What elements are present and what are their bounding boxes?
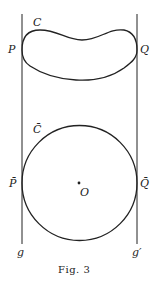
- figure-diagram: C P Q C̄ P̄ Q̄ O g g′ Fig. 3: [0, 0, 155, 288]
- label-c: C: [33, 16, 42, 29]
- label-p-bar: P̄: [8, 177, 17, 190]
- label-q: Q: [140, 43, 149, 56]
- figure-caption: Fig. 3: [58, 264, 90, 275]
- label-p: P: [7, 43, 16, 56]
- label-g: g: [17, 246, 24, 259]
- label-g-prime: g′: [132, 246, 142, 259]
- label-o: O: [80, 186, 89, 199]
- center-point-o: [78, 182, 81, 185]
- curve-c: [22, 30, 137, 80]
- label-c-bar: C̄: [33, 123, 42, 136]
- label-q-bar: Q̄: [140, 177, 149, 190]
